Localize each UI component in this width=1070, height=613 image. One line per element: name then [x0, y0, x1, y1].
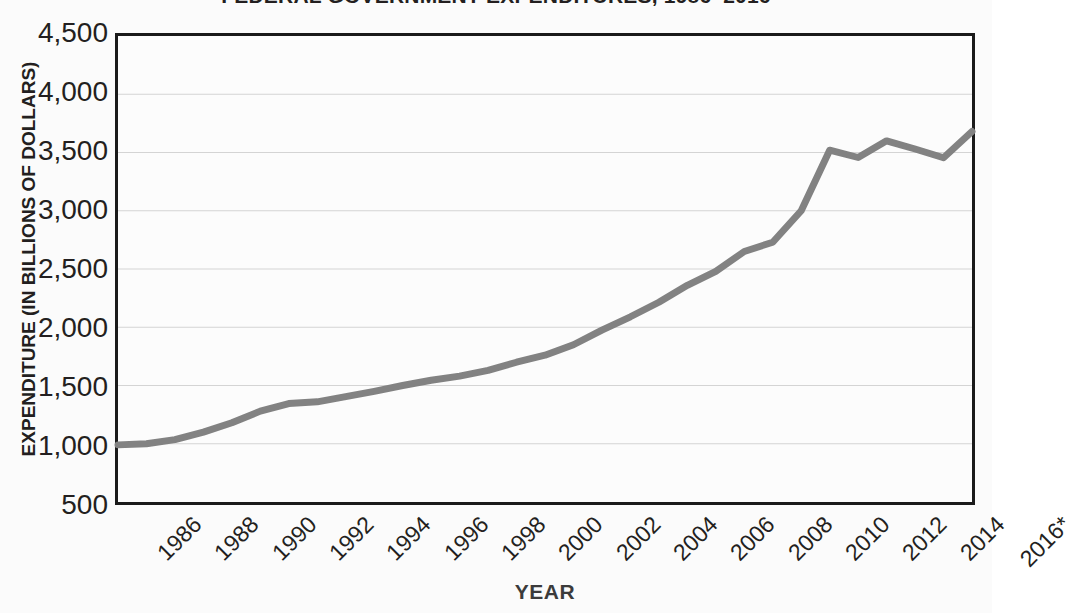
gridlines	[118, 94, 972, 444]
x-axis-tick-label: 2010	[840, 511, 895, 566]
y-axis-tick-label: 1,500	[8, 371, 108, 403]
x-axis-tick-label: 1994	[381, 511, 436, 566]
y-axis-tick-label: 2,500	[8, 253, 108, 285]
y-axis-tick-label: 3,000	[8, 194, 108, 226]
x-axis-tick-label: 2000	[553, 511, 608, 566]
x-axis-tick-label: 1996	[439, 511, 494, 566]
x-axis-tick-label: 1998	[496, 511, 551, 566]
x-axis-tick-label: 2012	[897, 511, 952, 566]
x-axis-tick-label: 2008	[783, 511, 838, 566]
x-axis-tick-label: 1990	[267, 511, 322, 566]
x-axis-tick-label: 1992	[324, 511, 379, 566]
x-axis-tick-labels: 1986198819901992199419961998200020022004…	[115, 505, 975, 580]
plot-area	[115, 33, 975, 505]
x-axis-tick-label: 2004	[668, 511, 723, 566]
x-axis-tick-label: 2014	[955, 511, 1010, 566]
y-axis-tick-label: 4,500	[8, 17, 108, 49]
x-axis-tick-label: 1986	[152, 511, 207, 566]
x-axis-tick-label: 2002	[611, 511, 666, 566]
x-axis-tick-label: 2016*	[1015, 511, 1070, 573]
y-axis-tick-label: 2,000	[8, 312, 108, 344]
y-axis-tick-label: 1,000	[8, 430, 108, 462]
data-series-line	[118, 36, 972, 502]
x-axis-title: YEAR	[115, 580, 975, 604]
y-axis-tick-label: 3,500	[8, 135, 108, 167]
y-axis-tick-labels: 4,5004,0003,5003,0002,5002,0001,5001,000…	[0, 33, 108, 505]
x-axis-tick-label: 2006	[725, 511, 780, 566]
x-axis-tick-label: 1988	[209, 511, 264, 566]
y-axis-tick-label: 4,000	[8, 76, 108, 108]
chart-title: FEDERAL GOVERNMENT EXPENDITURES, 1986–20…	[0, 0, 992, 8]
expenditure-line	[118, 132, 972, 445]
y-axis-tick-label: 500	[8, 489, 108, 521]
